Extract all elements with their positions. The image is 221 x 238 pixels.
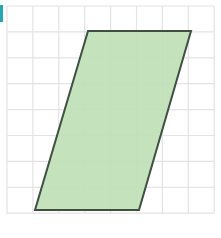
- marker-layer: [0, 0, 221, 238]
- geometry-figure: [0, 0, 221, 238]
- teal-edge-marker: [0, 5, 3, 22]
